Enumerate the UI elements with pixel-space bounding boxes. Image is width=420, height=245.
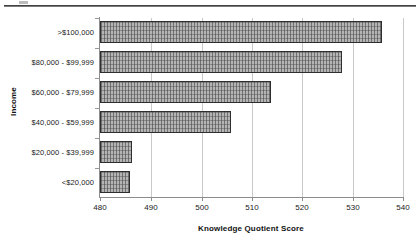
- y-axis-title: Income: [9, 72, 18, 132]
- bar-chart: >$100,000 $80,000 - $99,999 $60,000 - $7…: [0, 0, 420, 245]
- y-tick-1: [95, 48, 99, 49]
- y-tick-4: [95, 138, 99, 139]
- gridline-510: [252, 18, 253, 197]
- y-label-under-20000: <$20,000: [2, 178, 94, 187]
- x-label-500: 500: [182, 203, 222, 212]
- gridline-540: [403, 18, 404, 197]
- x-label-530: 530: [333, 203, 373, 212]
- gridline-490: [151, 18, 152, 197]
- y-label-80000-99999: $80,000 - $99,999: [2, 58, 94, 67]
- gridline-500: [202, 18, 203, 197]
- x-label-510: 510: [232, 203, 272, 212]
- gridline-520: [302, 18, 303, 197]
- bar-income-20000-39999: [100, 141, 132, 163]
- x-tick-520: [302, 197, 303, 201]
- y-label-over-100000: >$100,000: [2, 28, 94, 37]
- y-tick-3: [95, 108, 99, 109]
- x-label-480: 480: [80, 203, 120, 212]
- bar-income-over-100000: [100, 21, 382, 43]
- bar-income-80000-99999: [100, 51, 342, 73]
- bar-income-under-20000: [100, 171, 130, 193]
- y-tick-5: [95, 168, 99, 169]
- x-label-520: 520: [282, 203, 322, 212]
- x-tick-510: [252, 197, 253, 201]
- x-tick-480: [100, 197, 101, 201]
- y-label-20000-39999: $20,000 - $39,999: [2, 148, 94, 157]
- x-tick-530: [353, 197, 354, 201]
- x-label-540: 540: [383, 203, 420, 212]
- x-tick-540: [403, 197, 404, 201]
- bar-income-40000-59999: [100, 111, 231, 133]
- x-tick-490: [151, 197, 152, 201]
- gridline-530: [353, 18, 354, 197]
- y-tick-0: [95, 18, 99, 19]
- x-tick-500: [202, 197, 203, 201]
- x-label-490: 490: [131, 203, 171, 212]
- x-axis-title: Knowledge Quotient Score: [99, 224, 403, 233]
- y-tick-2: [95, 78, 99, 79]
- bar-income-60000-79999: [100, 81, 271, 103]
